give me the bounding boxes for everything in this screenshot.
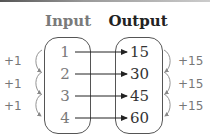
output-step-arrow-icon — [164, 50, 170, 116]
input-step-arrow-icon — [36, 50, 42, 116]
mapping-arrow-icon — [75, 52, 127, 118]
arrows-layer — [0, 0, 210, 140]
